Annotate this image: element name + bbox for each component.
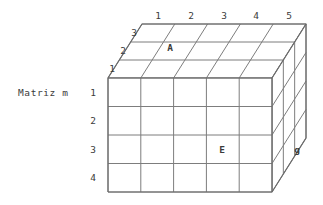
column-label-2: 2 (188, 10, 194, 21)
matrix-diagram: 1 2 3 4 5 3 2 1 1 2 3 4 Matriz m A E g (0, 0, 323, 205)
row-label-4: 4 (90, 172, 96, 183)
row-axis-labels: 1 2 3 4 (90, 87, 96, 183)
matrix-caption: Matriz m (18, 87, 69, 98)
column-label-5: 5 (286, 10, 292, 21)
top-face (108, 24, 306, 78)
depth-label-3: 3 (131, 27, 137, 38)
cell-label-g: g (294, 144, 300, 155)
depth-label-2: 2 (120, 45, 126, 56)
depth-label-1: 1 (109, 63, 115, 74)
row-label-2: 2 (90, 115, 96, 126)
column-label-3: 3 (221, 10, 227, 21)
front-face (108, 78, 272, 192)
row-label-1: 1 (90, 87, 96, 98)
column-label-4: 4 (253, 10, 259, 21)
column-axis-labels: 1 2 3 4 5 (155, 10, 292, 21)
matrix-cube-svg: 1 2 3 4 5 3 2 1 1 2 3 4 Matriz m A E g (0, 0, 323, 205)
top-face-surface (108, 24, 306, 78)
column-label-1: 1 (155, 10, 161, 21)
row-label-3: 3 (90, 144, 96, 155)
cell-label-a: A (167, 42, 173, 53)
cell-label-e: E (219, 144, 225, 155)
